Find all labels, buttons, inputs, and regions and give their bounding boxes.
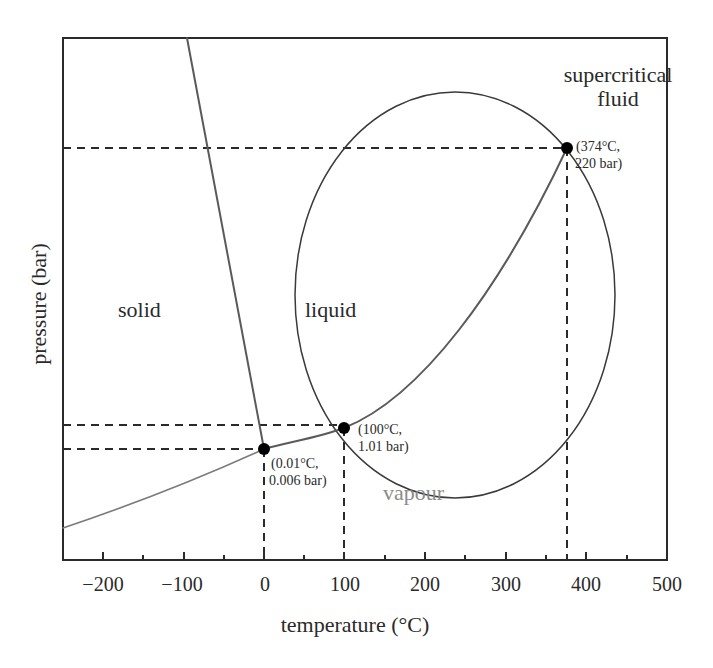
region-label-vapour: vapour	[383, 480, 445, 505]
x-tick-label: 200	[410, 573, 440, 595]
phase-diagram-chart: (0.01°C, 0.006 bar) (100°C, 1.01 bar) (3…	[0, 0, 713, 668]
critical-point-label-1: (374°C,	[576, 139, 620, 155]
dashed-guides	[63, 148, 567, 560]
x-tick-label: 300	[491, 573, 521, 595]
critical-point-marker	[561, 142, 573, 154]
x-tick-label: −200	[82, 573, 123, 595]
boiling-point-label-2: 1.01 bar)	[358, 439, 409, 455]
triple-point-label-2: 0.006 bar)	[269, 473, 327, 489]
triple-point-marker	[258, 443, 270, 455]
region-label-supercritical-1: supercritical	[564, 62, 673, 87]
region-label-solid: solid	[118, 297, 161, 322]
triple-point-label-1: (0.01°C,	[271, 456, 319, 472]
boiling-point-label-1: (100°C,	[358, 422, 402, 438]
melting-line	[187, 38, 264, 449]
x-tick-labels: −200 −100 0 100 200 300 400 500	[82, 573, 682, 595]
region-label-supercritical-2: fluid	[597, 86, 639, 111]
sublimation-curve	[63, 449, 264, 528]
x-tick-label: 0	[260, 573, 270, 595]
x-axis-ticks	[103, 552, 627, 560]
y-axis-title: pressure (bar)	[26, 243, 51, 365]
x-tick-label: 400	[571, 573, 601, 595]
x-tick-label: 100	[330, 573, 360, 595]
x-tick-label: −100	[161, 573, 202, 595]
region-label-liquid: liquid	[305, 297, 356, 322]
boiling-point-marker	[338, 422, 350, 434]
x-axis-title: temperature (°C)	[281, 612, 430, 637]
phase-boundaries	[63, 38, 567, 528]
x-tick-label: 500	[652, 573, 682, 595]
critical-point-label-2: 220 bar)	[575, 156, 622, 172]
